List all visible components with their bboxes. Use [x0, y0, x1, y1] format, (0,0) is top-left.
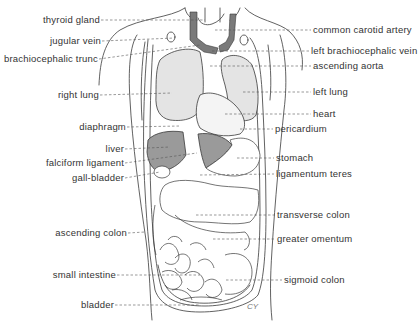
great-vessels [190, 12, 236, 54]
label-gall-bladder: gall-bladder [72, 172, 124, 183]
label-brachiocephalic-trunc: brachiocephalic trunc [4, 53, 98, 64]
label-left-brachiocephalic-vein: left brachiocephalic vein [311, 45, 417, 56]
label-liver: liver [106, 143, 124, 154]
gall-bladder [154, 166, 170, 178]
label-pericardium: pericardium [275, 123, 327, 134]
transverse-colon [160, 180, 259, 223]
label-heart: heart [313, 108, 336, 119]
ascending-colon [153, 205, 156, 255]
left-shoulder-outline [245, 8, 303, 70]
label-small-intestine: small intestine [53, 269, 116, 280]
intestines [153, 180, 259, 300]
artist-signature: CY [247, 302, 258, 311]
label-left-lung: left lung [313, 86, 348, 97]
greater-omentum [175, 215, 249, 250]
bladder [180, 297, 222, 300]
label-ascending-colon: ascending colon [55, 227, 127, 238]
label-stomach: stomach [276, 152, 313, 163]
label-ligamentum-teres: ligamentum teres [276, 168, 352, 179]
label-falciform-ligament: falciform ligament [46, 157, 124, 168]
label-bladder: bladder [81, 299, 114, 310]
label-jugular-vein: jugular vein [50, 35, 101, 46]
label-right-lung: right lung [58, 89, 99, 100]
label-diaphragm: diaphragm [79, 121, 126, 132]
label-thyroid-gland: thyroid gland [43, 14, 100, 25]
anatomy-diagram: thyroid gland jugular vein brachiocephal… [0, 0, 419, 332]
label-sigmoid-colon: sigmoid colon [284, 274, 345, 285]
label-transverse-colon: transverse colon [277, 209, 350, 220]
label-ascending-aorta: ascending aorta [313, 60, 384, 71]
label-greater-omentum: greater omentum [277, 233, 352, 244]
label-common-carotid-artery: common carotid artery [313, 24, 412, 35]
